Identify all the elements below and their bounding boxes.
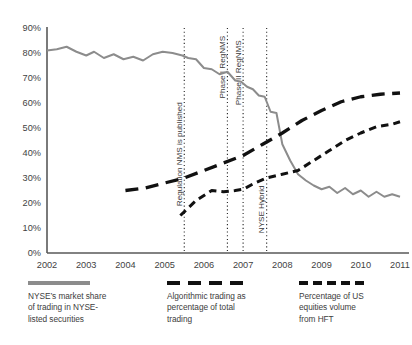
x-tick-label: 2002 xyxy=(37,260,57,270)
legend-label-2-line-1: equities volume xyxy=(299,302,405,313)
legend-label-1-line-2: trading xyxy=(167,314,285,325)
y-tick-label: 50% xyxy=(23,123,41,133)
y-tick-label: 70% xyxy=(23,73,41,83)
legend-swatch-short-dash-icon xyxy=(299,281,369,285)
x-tick-label: 2008 xyxy=(272,260,292,270)
x-tick-label: 2004 xyxy=(115,260,135,270)
chart-container: 0%10%20%30%40%50%60%70%80%90%20022003200… xyxy=(0,0,412,345)
legend-label-0-line-1: of trading in NYSE- xyxy=(28,302,146,313)
legend-item-nyse-market-share: NYSE’s market shareof trading in NYSE-li… xyxy=(28,281,146,325)
legend-swatch-solid-icon xyxy=(28,281,90,285)
legend-label-2: Percentage of USequities volumefrom HFT xyxy=(299,291,405,325)
legend-swatch-long-dash-icon xyxy=(167,281,247,285)
annotation-label: NYSE Hybrid xyxy=(257,186,266,234)
x-tick-label: 2011 xyxy=(390,260,410,270)
y-tick-label: 40% xyxy=(23,148,41,158)
y-tick-label: 90% xyxy=(23,23,41,33)
annotation-label: Phase I RegNMS xyxy=(218,35,227,98)
legend-label-0: NYSE’s market shareof trading in NYSE-li… xyxy=(28,291,146,325)
y-tick-label: 0% xyxy=(28,248,41,258)
legend-label-1-line-1: percentage of total xyxy=(167,302,285,313)
x-tick-label: 2010 xyxy=(351,260,371,270)
chart-plot-area: 0%10%20%30%40%50%60%70%80%90%20022003200… xyxy=(0,0,412,281)
y-tick-label: 60% xyxy=(23,98,41,108)
x-tick-label: 2009 xyxy=(311,260,331,270)
legend-label-1-line-0: Algorithmic trading as xyxy=(167,291,285,302)
legend-label-0-line-0: NYSE’s market share xyxy=(28,291,146,302)
legend-label-0-line-2: listed securities xyxy=(28,314,146,325)
annotation-label: Regulation NMS is published xyxy=(175,102,184,206)
x-tick-label: 2003 xyxy=(76,260,96,270)
legend-label-1: Algorithmic trading aspercentage of tota… xyxy=(167,291,285,325)
legend-label-2-line-0: Percentage of US xyxy=(299,291,405,302)
x-tick-label: 2006 xyxy=(194,260,214,270)
y-tick-label: 30% xyxy=(23,173,41,183)
y-tick-label: 20% xyxy=(23,198,41,208)
annotation-label: Phase II RegNMS xyxy=(234,40,243,105)
series-line xyxy=(125,93,400,191)
y-tick-label: 10% xyxy=(23,223,41,233)
x-tick-label: 2005 xyxy=(154,260,174,270)
legend-label-2-line-2: from HFT xyxy=(299,314,405,325)
chart-legend: NYSE’s market shareof trading in NYSE-li… xyxy=(0,281,412,345)
y-tick-label: 80% xyxy=(23,48,41,58)
legend-item-algorithmic-trading: Algorithmic trading aspercentage of tota… xyxy=(167,281,285,325)
legend-item-hft-percentage: Percentage of USequities volumefrom HFT xyxy=(299,281,405,325)
x-tick-label: 2007 xyxy=(233,260,253,270)
